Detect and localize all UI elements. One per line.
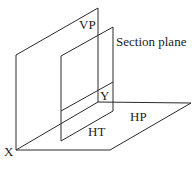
section-plane-label: Section plane <box>116 35 186 48</box>
vp-label: VP <box>79 18 96 31</box>
x-label: X <box>4 145 13 158</box>
hp-label: HP <box>130 110 147 123</box>
y-label: Y <box>100 89 109 102</box>
section-plane-diagram: VP Section plane Y HP HT X <box>0 0 194 176</box>
ht-label: HT <box>88 125 105 138</box>
diagram-lines <box>0 0 194 176</box>
section-plane <box>61 27 113 141</box>
